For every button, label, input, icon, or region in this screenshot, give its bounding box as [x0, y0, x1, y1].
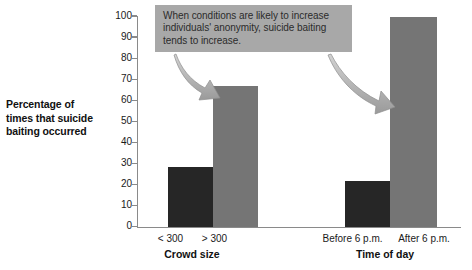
bar-chart: Percentage of times that suicide baiting… — [0, 0, 472, 270]
group-label-crowd-size: Crowd size — [147, 248, 237, 260]
bar-300 — [168, 167, 213, 227]
annotation-callout: When conditions are likely to increase i… — [155, 5, 352, 52]
category-label-before-6pm: Before 6 p.m. — [315, 233, 390, 245]
annotation-callout-text: When conditions are likely to increase i… — [163, 10, 345, 47]
bar-300 — [213, 86, 258, 227]
category-label-after-6pm: After 6 p.m. — [389, 233, 459, 245]
category-label-crowd-gt300: > 300 — [192, 233, 237, 245]
bar-before-6-p-m — [345, 181, 390, 227]
category-label-crowd-lt300: < 300 — [148, 233, 193, 245]
group-label-time-of-day: Time of day — [330, 248, 440, 260]
bar-after-6-p-m — [390, 17, 437, 227]
